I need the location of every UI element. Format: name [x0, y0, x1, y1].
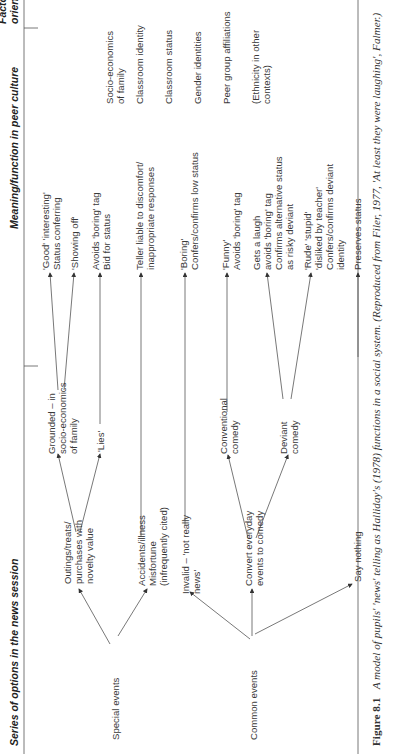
node-say-nothing: Say nothing [352, 531, 363, 582]
meaning-avoids-boring: Avoids 'boring' tag Bid for status [90, 192, 112, 270]
factor-classroom-status: Classroom status [163, 30, 174, 104]
node-outings: Outings/treats/ purchases with novelty v… [62, 520, 95, 584]
factor-classroom-identity: Classroom identity [134, 25, 145, 104]
figure-caption: Figure 8.1 A model of pupils' 'news' tel… [370, 13, 382, 746]
factor-gender-identities: Gender identities [192, 31, 203, 104]
rotated-figure-page: Series of options in the news session Me… [0, 0, 394, 754]
meaning-boring: 'Boring' Confers/confirms low status [178, 152, 200, 270]
figure-caption-text: A model of pupils' 'news' telling as Hal… [370, 13, 382, 690]
meaning-gets-a-laugh: Gets a laugh avoids 'boring' tag Confirm… [251, 156, 295, 270]
node-conventional-comedy: Conventional comedy [218, 398, 240, 454]
factor-ethnicity: (Ethnicity in other contexts) [250, 30, 272, 104]
node-accidents: Accidents/illness Misfortune (infrequent… [136, 507, 169, 586]
meaning-funny: 'Funny' Avoids 'boring' tag [220, 192, 242, 270]
node-invalid: Invalid – 'not really news' [180, 515, 202, 594]
node-convert: Convert everyday events to comedy [243, 511, 265, 586]
factor-peer-group: Peer group affiliations [221, 11, 232, 104]
figure-label: Figure 8.1 [370, 698, 382, 746]
meaning-preserves-status: Preserves status [352, 199, 363, 270]
node-deviant-comedy: Deviant comedy [278, 420, 300, 454]
factor-socio-economics: Socio-economics of family [104, 31, 126, 104]
node-common-events: Common events [248, 670, 259, 740]
node-special-events: Special events [110, 678, 121, 740]
column-header-options: Series of options in the news session [8, 559, 20, 746]
node-lies: 'Lies' [95, 431, 106, 452]
node-grounded: Grounded – in socio-economics of family [46, 383, 79, 454]
column-header-factors-line1: Factors affecting [0, 0, 8, 24]
meaning-good-interesting: 'Good' 'interesting' Status conferring [40, 192, 62, 270]
diagram-lines [0, 0, 394, 754]
column-header-factors-line2: orientation and access [8, 0, 20, 24]
column-header-meaning: Meaning/function in peer culture [8, 67, 20, 229]
meaning-teller-liable: Teller liable to discomfort/ inappropria… [134, 162, 156, 270]
meaning-showing-off: 'Showing off' [69, 216, 80, 270]
meaning-rude-stupid: 'Rude' 'stupid' 'disliked by teacher' Co… [302, 164, 346, 270]
